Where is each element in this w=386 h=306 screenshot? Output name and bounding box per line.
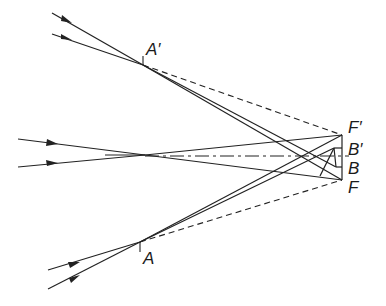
optics-diagram: A′ A F′ B′ B F (0, 0, 386, 306)
label-b: B (348, 159, 359, 178)
label-f-prime: F′ (348, 118, 362, 137)
bottom-ray-bundle (48, 135, 342, 289)
label-a-prime: A′ (145, 40, 161, 59)
arrow-icon (68, 262, 80, 268)
arrow-icon (46, 160, 58, 166)
arrow-icon (61, 34, 72, 40)
top-ray-bundle (52, 13, 342, 180)
arrow-icon (46, 139, 58, 146)
arrow-icon (61, 15, 72, 23)
arrow-icon (69, 275, 80, 283)
label-a: A (142, 249, 154, 268)
label-f: F (348, 178, 360, 197)
label-b-prime: B′ (348, 140, 363, 159)
